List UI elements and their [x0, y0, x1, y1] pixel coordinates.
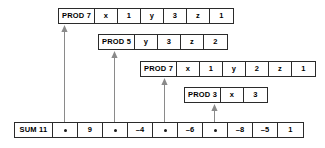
- pointer-arrow-2: [110, 51, 119, 122]
- prod-node-cell: 3: [158, 35, 181, 49]
- sum-pointer-cell: [103, 123, 128, 137]
- sum-value-cell: –4: [128, 123, 153, 137]
- prod-node-cell: x: [95, 9, 118, 23]
- pointer-arrow-4: [210, 104, 219, 122]
- diagram-canvas: PROD 7 x 1 y 3 z 1 PROD 5 y 3 z 2 PROD 7…: [0, 0, 325, 148]
- prod-node-row-2: PROD 5 y 3 z 2: [98, 34, 228, 50]
- prod-node-cell: 1: [210, 9, 233, 23]
- prod-node-cell: z: [187, 9, 210, 23]
- prod-node-row-4: PROD 3 x 3: [184, 87, 268, 103]
- prod-node-cell: 1: [292, 62, 315, 76]
- prod-node-header: PROD 5: [99, 35, 135, 49]
- prod-node-cell: y: [141, 9, 164, 23]
- sum-value-cell: –6: [178, 123, 203, 137]
- prod-node-cell: 1: [200, 62, 223, 76]
- sum-pointer-cell: [203, 123, 228, 137]
- sum-node-row: SUM 11 9 –4 –6 –8 –5 1: [14, 122, 304, 138]
- sum-value-cell: –8: [228, 123, 253, 137]
- prod-node-cell: z: [181, 35, 204, 49]
- prod-node-header: PROD 7: [141, 62, 177, 76]
- prod-node-cell: y: [223, 62, 246, 76]
- prod-node-cell: x: [177, 62, 200, 76]
- prod-node-cell: z: [269, 62, 292, 76]
- prod-node-row-3: PROD 7 x 1 y 2 z 1: [140, 61, 316, 77]
- prod-node-cell: 3: [164, 9, 187, 23]
- prod-node-cell: 2: [246, 62, 269, 76]
- prod-node-cell: x: [221, 88, 244, 102]
- sum-node-header: SUM 11: [15, 123, 53, 137]
- prod-node-row-1: PROD 7 x 1 y 3 z 1: [58, 8, 234, 24]
- pointer-arrow-1: [60, 25, 69, 122]
- sum-pointer-cell: [153, 123, 178, 137]
- prod-node-cell: 2: [204, 35, 227, 49]
- prod-node-cell: 1: [118, 9, 141, 23]
- pointer-arrow-3: [160, 78, 169, 122]
- sum-value-cell: 9: [78, 123, 103, 137]
- prod-node-cell: y: [135, 35, 158, 49]
- sum-value-cell: 1: [278, 123, 303, 137]
- sum-pointer-cell: [53, 123, 78, 137]
- sum-value-cell: –5: [253, 123, 278, 137]
- prod-node-cell: 3: [244, 88, 267, 102]
- prod-node-header: PROD 3: [185, 88, 221, 102]
- prod-node-header: PROD 7: [59, 9, 95, 23]
